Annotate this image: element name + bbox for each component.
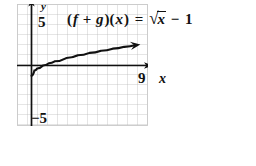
y-tick-label-5: 5 xyxy=(38,15,46,30)
equation-minus: − xyxy=(166,11,184,27)
y-tick-label-negative-5: −5 xyxy=(31,111,47,126)
x-tick-label-9: 9 xyxy=(138,71,146,86)
x-axis-label: x xyxy=(159,72,166,86)
y-axis-label: y xyxy=(41,1,46,12)
figure-canvas: y 5 −5 9 x (f + g)(x) = √x − 1 xyxy=(0,0,256,166)
equation-constant-1: 1 xyxy=(184,11,194,27)
radicand-x: x xyxy=(157,11,166,27)
equation-paren-mid: )( xyxy=(104,11,116,27)
equation-plus: + xyxy=(78,11,96,27)
equation-paren-open: ( xyxy=(66,11,73,27)
square-root-expression: √x xyxy=(148,10,166,27)
equation-x-argument: x xyxy=(116,11,124,27)
equation-g: g xyxy=(96,11,104,27)
equation-equals: = xyxy=(130,11,148,27)
equation-annotation: (f + g)(x) = √x − 1 xyxy=(66,10,194,27)
equation-paren-close: ) xyxy=(123,11,130,27)
